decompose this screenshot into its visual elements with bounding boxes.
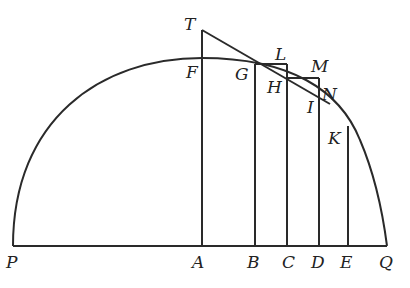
label-K: K [327,128,342,148]
label-Q: Q [379,252,393,272]
label-P: P [5,252,18,272]
label-T: T [184,14,197,34]
label-A: A [190,252,204,272]
label-D: D [310,252,325,272]
label-E: E [339,252,353,272]
label-L: L [274,44,286,64]
label-H: H [266,77,283,97]
label-C: C [282,252,295,272]
label-F: F [185,62,199,82]
label-I: I [306,97,314,117]
label-N: N [321,84,338,104]
label-M: M [310,56,329,76]
semicircle-diagram: T F G L H M N I K P A B C D E Q [0,0,410,288]
label-B: B [246,252,260,272]
label-G: G [235,64,249,84]
